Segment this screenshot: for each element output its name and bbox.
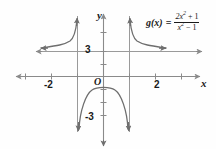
fraction-numerator: 2x2 + 1 [174,13,199,22]
numerator-base: 2x [175,12,183,21]
y-tick-label-neg3: -3 [85,112,94,122]
y-tick-label-3: 3 [85,45,91,55]
function-equation-annotation: g(x) = 2x2 + 1 x2 − 1 [146,13,199,32]
y-axis-label: y [97,10,102,21]
denominator-tail: − 1 [184,23,197,32]
curve-left-branch [41,18,77,48]
y-axis [101,14,107,146]
equals-sign: = [166,18,172,28]
x-tick-label-2: 2 [154,80,160,90]
rational-function-graph: y x O 3 -3 -2 2 g(x) = 2x2 + 1 x2 − 1 [0,0,216,149]
fraction-denominator: x2 − 1 [176,23,197,32]
function-name-label: g(x) [146,18,163,28]
x-axis-label: x [201,78,207,89]
origin-label: O [94,77,101,87]
numerator-tail: + 1 [186,12,199,21]
fraction: 2x2 + 1 x2 − 1 [174,13,199,32]
x-tick-label-neg2: -2 [44,80,53,90]
